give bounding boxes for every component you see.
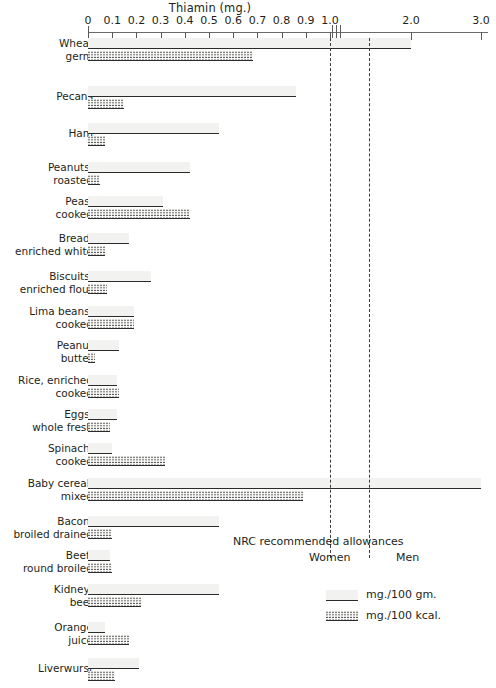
row-label: Pecans [0, 90, 93, 103]
row-label-line: mixed [0, 490, 93, 503]
bar-mg-per-100gm [88, 550, 110, 561]
bar-mg-per-100gm [88, 196, 163, 207]
row-label-line: Bacon, [0, 515, 93, 528]
x-axis-tick-label: 0.9 [297, 14, 315, 27]
row-label-line: Peanut [0, 339, 93, 352]
chart-legend: mg./100 gm.mg./100 kcal. [326, 588, 486, 630]
bar-mg-per-100gm [88, 622, 105, 633]
x-axis-tick-label: 0.2 [128, 14, 146, 27]
row-bars [88, 584, 219, 607]
row-bars [88, 516, 219, 539]
bar-mg-per-100gm [88, 86, 296, 97]
bar-mg-per-100gm [88, 658, 139, 669]
bar-mg-per-100gm [88, 584, 219, 595]
row-label: Kidney,beef [0, 583, 93, 608]
bar-mg-per-100kcal [88, 99, 124, 109]
thiamin-bar-chart: Thiamin (mg.) 00.10.20.30.40.50.60.70.80… [0, 0, 496, 688]
bar-mg-per-100gm [88, 409, 117, 420]
bar-mg-per-100gm [88, 443, 112, 454]
row-label: Beef,round broiled [0, 549, 93, 574]
row-label: Baby cereal,mixed [0, 477, 93, 502]
row-label: Spinach,cooked [0, 442, 93, 467]
bar-mg-per-100kcal [88, 456, 165, 466]
row-bars [88, 38, 411, 61]
row-bars [88, 86, 296, 109]
bar-mg-per-100kcal [88, 529, 112, 539]
row-label-line: cooked [0, 387, 93, 400]
bar-mg-per-100kcal [88, 597, 141, 607]
bar-mg-per-100kcal [88, 491, 303, 501]
row-label-line: cooked [0, 318, 93, 331]
bar-mg-per-100gm [88, 478, 481, 489]
bar-mg-per-100kcal [88, 175, 100, 185]
row-label: Peanuts,roasted [0, 161, 93, 186]
row-bars [88, 622, 129, 645]
x-axis-tick-label: 0.8 [273, 14, 291, 27]
legend-label: mg./100 kcal. [366, 609, 441, 622]
row-label-line: Beef, [0, 549, 93, 562]
x-axis-tick-label: 0.1 [103, 14, 121, 27]
bar-mg-per-100gm [88, 123, 219, 134]
row-label-line: Rice, enriched [0, 374, 93, 387]
row-bars [88, 550, 112, 573]
row-label-line: whole fresh [0, 421, 93, 434]
row-bars [88, 409, 117, 432]
row-label: Ham [0, 127, 93, 140]
row-label-line: juice [0, 634, 93, 647]
row-label-line: germ [0, 50, 93, 63]
x-axis-tick-label: 0.5 [200, 14, 218, 27]
nrc-allowances-label: NRC recommended allowances [233, 535, 404, 548]
row-label-line: enriched flour [0, 283, 93, 296]
x-axis-tick-label: 0.7 [249, 14, 267, 27]
nrc-women-label: Women [309, 551, 350, 564]
bar-mg-per-100gm [88, 162, 190, 173]
bar-mg-per-100gm [88, 516, 219, 527]
row-bars [88, 162, 190, 185]
row-label-line: Biscuits, [0, 270, 93, 283]
row-bars [88, 196, 190, 219]
row-bars [88, 478, 481, 501]
row-label: Orangejuice [0, 621, 93, 646]
bar-mg-per-100kcal [88, 284, 107, 294]
row-label-line: Kidney, [0, 583, 93, 596]
nrc-men-label: Men [396, 551, 419, 564]
row-label: Wheatgerm [0, 37, 93, 62]
bar-mg-per-100kcal [88, 136, 105, 146]
row-bars [88, 123, 219, 146]
x-axis-tick-label: 0.3 [152, 14, 170, 27]
row-label-line: Pecans [0, 90, 93, 103]
row-label-line: Wheat [0, 37, 93, 50]
row-bars [88, 340, 119, 363]
bar-mg-per-100kcal [88, 422, 110, 432]
bar-mg-per-100kcal [88, 353, 95, 363]
legend-item: mg./100 kcal. [326, 609, 486, 630]
row-label: Rice, enrichedcooked [0, 374, 93, 399]
row-label: Bacon,broiled drained [0, 515, 93, 540]
axis-break-mark [332, 25, 333, 39]
row-label: Biscuits,enriched flour [0, 270, 93, 295]
row-label-line: Spinach, [0, 442, 93, 455]
row-label-line: Baby cereal, [0, 477, 93, 490]
bar-mg-per-100kcal [88, 635, 129, 645]
row-label-line: roasted [0, 174, 93, 187]
row-label-line: cooked [0, 208, 93, 221]
x-axis-tick-labels: 00.10.20.30.40.50.60.70.80.91.02.03.0 [0, 14, 496, 28]
bar-mg-per-100kcal [88, 388, 119, 398]
chart-title: Thiamin (mg.) [0, 1, 420, 15]
axis-break-mark [340, 25, 341, 39]
bar-mg-per-100gm [88, 340, 119, 351]
legend-label: mg./100 gm. [366, 588, 437, 601]
row-bars [88, 443, 165, 466]
row-label-line: broiled drained [0, 528, 93, 541]
legend-swatch-dotted [326, 611, 358, 621]
row-bars [88, 233, 129, 256]
row-label-line: cooked [0, 455, 93, 468]
row-label-line: enriched white [0, 245, 93, 258]
row-label-line: round broiled [0, 562, 93, 575]
row-label-line: butter [0, 352, 93, 365]
x-axis-tick-label: 0.4 [176, 14, 194, 27]
legend-item: mg./100 gm. [326, 588, 486, 609]
row-label: Peas,cooked [0, 195, 93, 220]
row-label-line: Ham [0, 127, 93, 140]
x-axis-start-cap [88, 26, 89, 32]
